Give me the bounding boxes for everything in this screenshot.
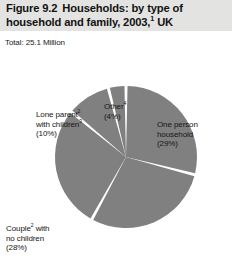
footnote-marker-2b: 2 bbox=[31, 222, 34, 228]
figure-number: Figure 9.2 bbox=[6, 2, 57, 14]
footnote-marker-3: 3 bbox=[79, 118, 82, 124]
label-couple-no-line1: Couple2 with bbox=[6, 224, 49, 234]
label-one-person-percent: (29%) bbox=[157, 139, 198, 149]
label-couple-no-line2: no children bbox=[6, 234, 49, 244]
title-line-1: Figure 9.2Households: by type of bbox=[6, 2, 230, 16]
label-other-line1: Other4 bbox=[104, 102, 126, 112]
label-other: Other4 (4%) bbox=[104, 102, 126, 121]
footnote-marker-2: 2 bbox=[78, 108, 81, 114]
label-other-percent: (4%) bbox=[104, 112, 126, 122]
label-lone-parent-percent: (10%) bbox=[36, 129, 82, 139]
title-line-1-text: Households: by type of bbox=[62, 2, 182, 14]
title-band: Figure 9.2Households: by type of househo… bbox=[0, 0, 232, 31]
label-one-person-line2: household bbox=[157, 130, 198, 140]
label-lone-parent-line2: with children3 bbox=[36, 120, 82, 130]
label-one-person-household: One person household (29%) bbox=[157, 120, 198, 149]
title-line-2: household and family, 2003,1 UK bbox=[6, 16, 230, 30]
pie-chart: Lone parent2 with children3 (10%) Other4… bbox=[0, 48, 232, 256]
label-lone-parent-line1: Lone parent2 bbox=[36, 110, 82, 120]
figure-container: Figure 9.2Households: by type of househo… bbox=[0, 0, 232, 256]
footnote-marker-4: 4 bbox=[124, 100, 127, 106]
footnote-marker-1: 1 bbox=[150, 15, 154, 23]
page-title: Figure 9.2Households: by type of househo… bbox=[6, 2, 230, 29]
label-lone-parent-with-children: Lone parent2 with children3 (10%) bbox=[36, 110, 82, 139]
label-couple-no-children: Couple2 with no children (28%) bbox=[6, 224, 49, 253]
label-one-person-line1: One person bbox=[157, 120, 198, 130]
label-couple-no-percent: (28%) bbox=[6, 243, 49, 253]
total-label: Total: 25.1 Million bbox=[5, 38, 65, 47]
